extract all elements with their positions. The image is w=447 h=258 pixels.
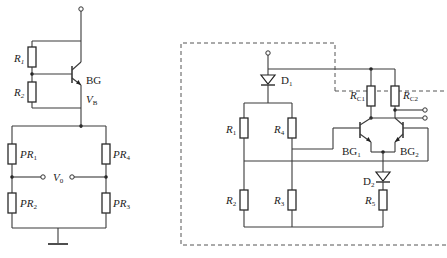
- resistor-r3: [288, 190, 296, 210]
- label-pr2: PR2: [19, 197, 37, 211]
- label-r1: R1: [13, 52, 24, 66]
- transistor-bg2: [395, 118, 403, 142]
- resistor-r2: [28, 82, 36, 102]
- circuit-diagram: R1 R2 BG VB PR1 PR2: [0, 0, 447, 258]
- label-bg: BG: [86, 74, 101, 86]
- resistor-r2: [240, 190, 248, 210]
- label-pr4: PR4: [112, 148, 130, 162]
- transistor-bg1: [360, 118, 371, 142]
- label-v0: V0: [53, 171, 64, 185]
- resistor-r1: [240, 118, 248, 138]
- output-terminal-1: [423, 108, 427, 112]
- dashed-boundary: [181, 43, 447, 245]
- label-pr1: PR1: [19, 148, 37, 162]
- resistor-rc1: [367, 86, 375, 106]
- resistor-r5: [379, 190, 387, 210]
- diode-d2: [376, 172, 390, 182]
- label-d2: D2: [363, 175, 375, 189]
- label-vb: VB: [86, 93, 98, 107]
- resistor-pr3: [102, 193, 110, 213]
- label-bg1: BG1: [342, 145, 361, 159]
- resistor-r4: [288, 118, 296, 138]
- d1-terminal: [266, 51, 270, 55]
- label-r1-right: R1: [225, 123, 237, 137]
- left-circuit: R1 R2 BG VB PR1 PR2: [8, 7, 130, 244]
- resistor-r1: [28, 47, 36, 67]
- label-d1: D1: [281, 74, 293, 88]
- supply-terminal: [79, 7, 83, 11]
- label-r3: R3: [273, 194, 285, 208]
- label-pr3: PR3: [112, 197, 130, 211]
- diode-d1: [261, 75, 275, 85]
- label-r4: R4: [273, 123, 285, 137]
- resistor-pr2: [8, 193, 16, 213]
- resistor-rc2: [391, 86, 399, 106]
- output-terminal-right: [70, 175, 74, 179]
- label-r2-right: R2: [225, 194, 237, 208]
- label-r5: R5: [364, 194, 376, 208]
- label-bg2: BG2: [400, 145, 419, 159]
- output-terminal-left: [41, 175, 45, 179]
- transistor-bg: [72, 60, 81, 85]
- label-r2: R2: [13, 86, 25, 100]
- resistor-pr1: [8, 144, 16, 164]
- output-terminal-2: [423, 116, 427, 120]
- bridge-circuit: PR1 PR2 PR3 PR4 V0: [8, 126, 130, 244]
- resistor-pr4: [102, 144, 110, 164]
- right-circuit: D1 RC1 RC2 R1 R4: [181, 43, 447, 245]
